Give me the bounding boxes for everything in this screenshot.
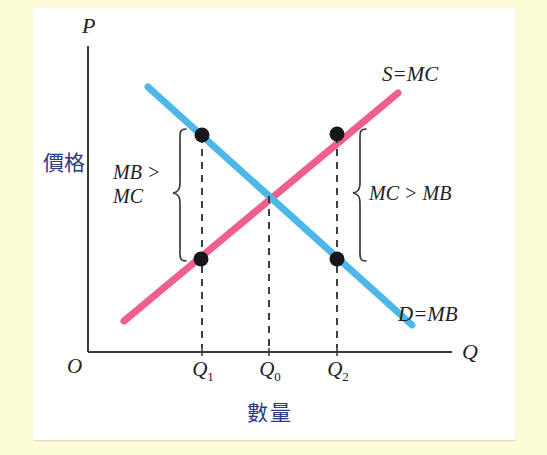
y-axis-title: 價格: [43, 150, 69, 177]
marker-mc-at-q1: [194, 252, 209, 267]
annotation-mb-gt-mc-line1: MB >: [113, 160, 160, 184]
marker-mb-at-q1: [195, 128, 210, 143]
tick-label-q0: Q0: [249, 358, 291, 385]
annotation-mb-gt-mc: MB > MC: [113, 160, 160, 209]
brace-left: [173, 129, 186, 261]
tick-label-q2-base: Q: [327, 357, 342, 381]
tick-label-q0-base: Q: [259, 357, 274, 381]
tick-label-q1-base: Q: [192, 357, 207, 381]
supply-curve-label: S=MC: [382, 63, 438, 87]
tick-label-q2: Q2: [317, 358, 359, 385]
tick-label-q2-subscript: 2: [342, 369, 349, 384]
brace-right: [353, 129, 366, 261]
annotation-mc-gt-mb: MC > MB: [369, 182, 451, 204]
tick-label-q1-subscript: 1: [207, 369, 214, 384]
y-axis-symbol: P: [82, 14, 95, 39]
demand-curve: [148, 87, 412, 325]
figure-root: P Q O Q1 Q0 Q2 S=MC D=MB MB > MC MC > MB…: [0, 0, 547, 455]
origin-label: O: [67, 355, 82, 379]
x-axis-title: 數量: [228, 402, 312, 426]
plot-canvas: [0, 0, 547, 455]
annotation-mb-gt-mc-line2: MC: [113, 184, 160, 208]
tick-label-q1: Q1: [182, 358, 224, 385]
marker-mb-at-q2: [330, 252, 345, 267]
supply-curve: [124, 93, 398, 321]
x-axis-symbol: Q: [462, 340, 478, 365]
tick-label-q0-subscript: 0: [274, 369, 281, 384]
marker-mc-at-q2: [330, 127, 345, 142]
demand-curve-label: D=MB: [398, 303, 458, 327]
